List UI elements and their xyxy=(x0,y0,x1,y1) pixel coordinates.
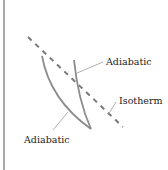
leader-adiabatic-upper xyxy=(77,62,103,73)
label-isotherm: Isotherm xyxy=(119,95,162,106)
diagram-canvas: Adiabatic Isotherm Adiabatic xyxy=(0,0,168,170)
label-adiabatic-upper: Adiabatic xyxy=(106,56,152,67)
leader-isotherm xyxy=(108,102,116,115)
leader-adiabatic-lower xyxy=(53,112,68,130)
label-adiabatic-lower: Adiabatic xyxy=(24,134,70,145)
adiabatic-curve-left xyxy=(42,56,91,129)
